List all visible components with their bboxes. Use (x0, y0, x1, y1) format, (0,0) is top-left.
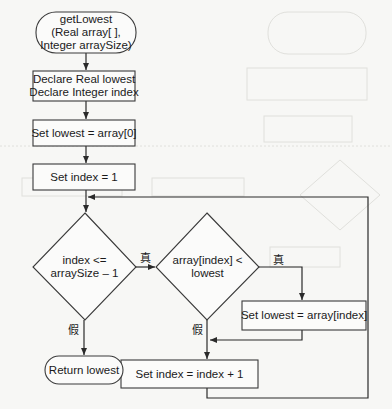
init-lowest-line-1: Set lowest = array[0] (31, 127, 136, 140)
loop-condition-line-2: arraySize – 1 (51, 267, 119, 280)
init-lowest-text: Set lowest = array[0] (33, 120, 135, 146)
loop-condition-line-1: index <= (62, 254, 106, 267)
increment-index-text: Set index = index + 1 (121, 360, 258, 388)
connectors (84, 53, 368, 398)
loop-true-label: 真 (140, 249, 151, 265)
start-line-1: getLowest (60, 13, 112, 26)
init-index-line-1: Set index = 1 (50, 171, 117, 184)
return-text: Return lowest (45, 356, 123, 384)
start-line-2: (Real array[ ], (51, 26, 121, 39)
return-line-1: Return lowest (49, 364, 119, 377)
start-line-3: Integer arraySize) (40, 39, 131, 52)
increment-index-line-1: Set index = index + 1 (135, 368, 243, 381)
declare-line-1: Declare Real lowest (33, 73, 135, 86)
declare-line-2: Declare Integer index (29, 86, 138, 99)
update-lowest-text: Set lowest = array[index] (242, 301, 366, 330)
flowchart-canvas (0, 0, 392, 409)
compare-true-label: 真 (273, 251, 284, 267)
declare-text: Declare Real lowest Declare Integer inde… (33, 71, 135, 101)
compare-condition-line-2: lowest (191, 267, 224, 280)
compare-condition-line-1: array[index] < (173, 254, 243, 267)
loop-false-label: 假 (68, 321, 79, 337)
arrow-compare-true-to-update (259, 267, 302, 300)
compare-condition-text: array[index] < lowest (156, 253, 259, 281)
loop-condition-text: index <= arraySize – 1 (33, 253, 136, 281)
update-lowest-line-1: Set lowest = array[index] (241, 309, 367, 322)
start-terminal-text: getLowest (Real array[ ], Integer arrayS… (36, 12, 136, 53)
compare-false-label: 假 (192, 321, 203, 337)
init-index-text: Set index = 1 (33, 164, 135, 190)
arrow-update-to-merge (210, 330, 302, 340)
